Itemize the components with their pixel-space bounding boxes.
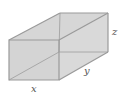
- front-face: [9, 40, 59, 80]
- label-x: x: [31, 83, 37, 94]
- label-y: y: [83, 65, 90, 76]
- box-diagram: x y z: [0, 0, 119, 96]
- label-z: z: [111, 26, 118, 37]
